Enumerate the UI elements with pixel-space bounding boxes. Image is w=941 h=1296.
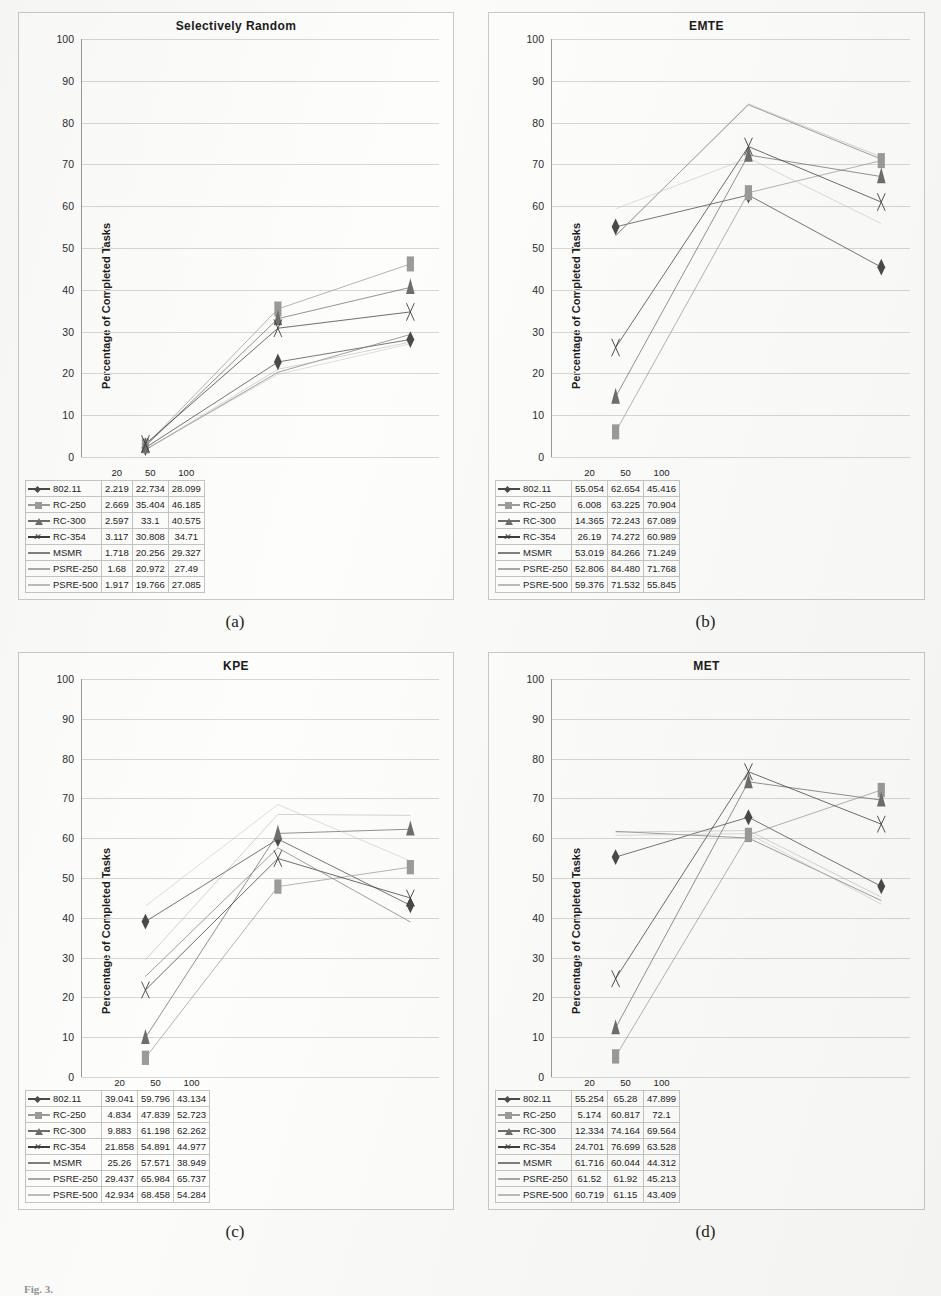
table-data-cell: 46.185 — [168, 497, 204, 513]
table-data-cell: 14.365 — [571, 513, 607, 529]
table-data-cell: 62.654 — [607, 481, 643, 497]
table-data-cell: 44.977 — [174, 1139, 210, 1155]
legend-swatch-x-icon: ✕ — [498, 536, 520, 538]
legend-swatch-triangle-icon — [498, 1130, 520, 1132]
table-data-cell: 2.219 — [101, 481, 132, 497]
subfigure-label: (c) — [0, 1222, 470, 1242]
y-axis-tick: 100 — [56, 673, 81, 685]
table-data-cell: 34.71 — [168, 529, 204, 545]
table-data-cell: 63.225 — [607, 497, 643, 513]
y-axis-tick: 20 — [62, 991, 81, 1003]
legend-swatch-line-icon — [28, 552, 50, 554]
table-data-cell: 1.68 — [101, 561, 132, 577]
series-name: PSRE-250 — [53, 563, 98, 574]
table-data-cell: 29.327 — [168, 545, 204, 561]
legend-row-label: PSRE-500 — [26, 577, 102, 593]
y-axis-tick: 90 — [62, 75, 81, 87]
figure-caption: Fig. 3. — [24, 1283, 53, 1295]
gridline — [551, 457, 910, 458]
y-axis-tick: 30 — [532, 326, 551, 338]
data-table: 2050100802.112.21922.73428.099RC-2502.66… — [25, 465, 205, 593]
chart-title: MET — [489, 659, 924, 673]
y-axis-tick: 30 — [62, 952, 81, 964]
table-data-cell: 60.989 — [644, 529, 680, 545]
marker-overlay-1 — [81, 39, 439, 457]
data-table: 2050100802.1139.04159.79643.134RC-2504.8… — [25, 1075, 210, 1203]
table-data-cell: 1.917 — [101, 577, 132, 593]
legend-swatch-line-icon — [28, 1194, 50, 1196]
y-axis-tick: 90 — [62, 713, 81, 725]
panel-border: METPercentage of Completed Tasks10090807… — [488, 652, 925, 1210]
table-row: ✕RC-3543.11730.80834.71 — [26, 529, 205, 545]
y-axis-tick: 10 — [532, 1031, 551, 1043]
legend-swatch-line-icon — [498, 584, 520, 586]
gridline — [81, 457, 439, 458]
y-axis-tick: 100 — [526, 33, 551, 45]
table-data-cell: 30.808 — [132, 529, 168, 545]
figure-panel-b: EMTEPercentage of Completed Tasks1009080… — [470, 0, 941, 640]
series-name: RC-300 — [523, 1125, 556, 1136]
panel-border: Selectively RandomPercentage of Complete… — [18, 12, 454, 600]
y-axis-tick: 0 — [538, 451, 551, 463]
series-name: 802.11 — [53, 483, 81, 494]
legend-swatch-triangle-icon — [28, 1130, 50, 1132]
y-axis-tick: 100 — [56, 33, 81, 45]
table-data-cell: 52.806 — [571, 561, 607, 577]
table-data-cell: 69.564 — [644, 1123, 680, 1139]
table-header-cell: 50 — [607, 1075, 643, 1091]
series-name: PSRE-250 — [53, 1173, 98, 1184]
series-name: RC-354 — [53, 531, 86, 542]
table-data-cell: 44.312 — [644, 1155, 680, 1171]
y-axis-tick: 20 — [62, 367, 81, 379]
table-data-cell: 61.198 — [137, 1123, 173, 1139]
table-data-cell: 33.1 — [132, 513, 168, 529]
table-header-cell: 50 — [137, 1075, 173, 1091]
series-name: RC-354 — [523, 531, 556, 542]
series-name: PSRE-500 — [53, 1189, 98, 1200]
subfigure-label: (b) — [470, 612, 941, 632]
y-axis-tick: 30 — [532, 952, 551, 964]
table-row: PSRE-25029.43765.98465.737 — [26, 1171, 210, 1187]
series-name: MSMR — [53, 547, 82, 558]
legend-row-label: 802.11 — [26, 1091, 102, 1107]
legend-row-label: RC-300 — [496, 513, 572, 529]
subfigure-label: (a) — [0, 612, 470, 632]
legend-swatch-diamond-icon — [28, 488, 50, 490]
table-data-cell: 76.699 — [607, 1139, 643, 1155]
figure-panel-a: Selectively RandomPercentage of Complete… — [0, 0, 470, 640]
y-axis-tick: 40 — [532, 284, 551, 296]
table-data-cell: 62.262 — [174, 1123, 210, 1139]
y-axis-tick: 80 — [62, 753, 81, 765]
table-data-cell: 5.174 — [571, 1107, 607, 1123]
series-name: PSRE-500 — [523, 579, 568, 590]
y-axis-tick: 40 — [62, 284, 81, 296]
plot-area: 1009080706050403020100 — [551, 39, 910, 457]
figure-panel-grid: Selectively RandomPercentage of Complete… — [0, 0, 941, 1296]
marker-overlay-3 — [81, 679, 439, 1077]
table-data-cell: 84.480 — [607, 561, 643, 577]
legend-swatch-triangle-icon — [28, 520, 50, 522]
figure-panel-d: METPercentage of Completed Tasks10090807… — [470, 640, 941, 1250]
table-data-cell: 71.768 — [644, 561, 680, 577]
table-row: PSRE-2501.6820.97227.49 — [26, 561, 205, 577]
table-data-cell: 20.972 — [132, 561, 168, 577]
legend-row-label: PSRE-250 — [26, 1171, 102, 1187]
table-row: RC-30012.33474.16469.564 — [496, 1123, 680, 1139]
table-data-cell: 55.254 — [571, 1091, 607, 1107]
figure-panel-c: KPEPercentage of Completed Tasks10090807… — [0, 640, 470, 1250]
series-name: PSRE-500 — [53, 579, 98, 590]
y-axis-tick: 50 — [532, 242, 551, 254]
y-axis-tick: 100 — [526, 673, 551, 685]
series-name: RC-354 — [53, 1141, 86, 1152]
chart-title: Selectively Random — [19, 19, 453, 33]
table-data-cell: 72.1 — [644, 1107, 680, 1123]
y-axis-tick: 10 — [62, 409, 81, 421]
legend-swatch-square-icon — [28, 504, 50, 506]
legend-row-label: MSMR — [496, 1155, 572, 1171]
plot-area: 1009080706050403020100 — [81, 679, 439, 1077]
legend-swatch-line-icon — [28, 1162, 50, 1164]
table-row: ✕RC-35426.1974.27260.989 — [496, 529, 680, 545]
subfigure-label: (d) — [470, 1222, 941, 1242]
legend-swatch-triangle-icon — [498, 520, 520, 522]
legend-row-label: 802.11 — [496, 481, 572, 497]
